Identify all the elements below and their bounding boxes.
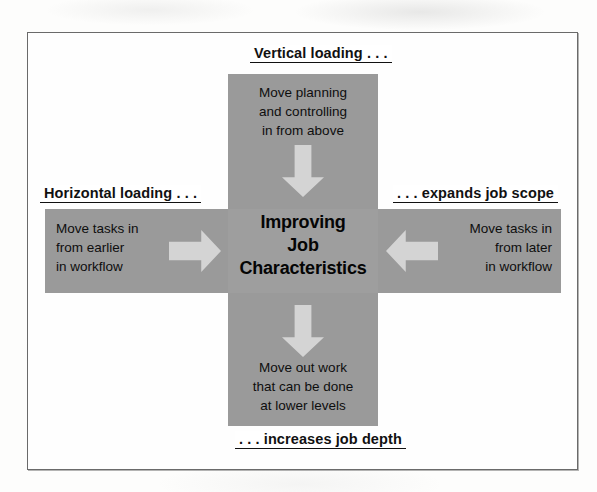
label-vertical-loading: Vertical loading . . . [250, 45, 392, 63]
figure-frame: Move planning and controlling in from ab… [27, 32, 578, 470]
arm-right-text: Move tasks in from later in workflow [420, 219, 552, 276]
arm-left-text: Move tasks in from earlier in workflow [56, 219, 186, 276]
label-increases-job-depth: . . . increases job depth [235, 431, 406, 449]
center-title: Improving Job Characteristics [224, 211, 382, 280]
label-expands-job-scope: . . . expands job scope [393, 185, 558, 203]
arm-top-text: Move planning and controlling in from ab… [234, 83, 372, 140]
label-horizontal-loading: Horizontal loading . . . [40, 185, 201, 203]
arm-bottom-text: Move out work that can be done at lower … [234, 358, 372, 415]
